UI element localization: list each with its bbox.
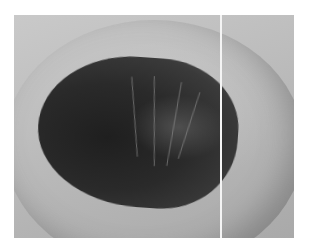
fold-line xyxy=(154,76,155,166)
photograph xyxy=(14,15,294,238)
fold-line xyxy=(131,77,138,157)
fold-line xyxy=(178,92,201,159)
vertical-divider-line xyxy=(220,15,222,238)
